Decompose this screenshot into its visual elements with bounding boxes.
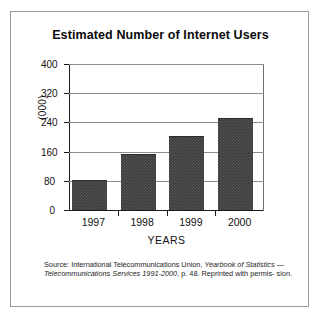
y-tick-320 — [64, 93, 69, 94]
figure-frame: Estimated Number of Internet Users (000)… — [10, 11, 309, 307]
y-tick-label-80: 80 — [41, 175, 55, 186]
x-tick-label-1997: 1997 — [82, 216, 105, 228]
gridline-320 — [69, 93, 264, 94]
x-axis-title: YEARS — [69, 234, 264, 246]
x-tick-3 — [215, 211, 216, 216]
y-tick-label-240: 240 — [41, 117, 55, 128]
right-spine — [263, 64, 264, 211]
x-tick-1 — [118, 211, 119, 216]
y-tick-160 — [64, 152, 69, 153]
y-tick-240 — [64, 122, 69, 123]
y-tick-80 — [64, 181, 69, 182]
y-tick-label-160: 160 — [41, 146, 55, 157]
source-line2-suffix: , p. 48. Reprinted with permis- — [177, 269, 274, 278]
bar-1998 — [121, 154, 156, 210]
source-line3: sion. — [277, 269, 292, 278]
bar-1997 — [72, 180, 107, 210]
source-line1-prefix: Source: International Telecommunications… — [44, 260, 205, 269]
x-tick-2 — [167, 211, 168, 216]
y-tick-label-0: 0 — [41, 205, 55, 216]
y-tick-400 — [64, 64, 69, 65]
y-axis-line — [69, 64, 70, 211]
y-tick-label-320: 320 — [41, 88, 55, 99]
y-tick-0 — [64, 210, 69, 211]
x-tick-label-2000: 2000 — [228, 216, 251, 228]
gridline-400 — [69, 64, 264, 65]
source-line1-italic: Yearbook of Statistics — [205, 260, 275, 269]
source-note: Source: International Telecommunications… — [44, 260, 292, 279]
x-tick-label-1999: 1999 — [179, 216, 202, 228]
bar-1999 — [169, 136, 204, 210]
chart-title: Estimated Number of Internet Users — [11, 28, 309, 42]
bar-2000 — [218, 118, 253, 210]
x-tick-label-1998: 1998 — [130, 216, 153, 228]
y-tick-label-400: 400 — [41, 59, 55, 70]
plot-area: 080160240320400 1997199819992000 — [69, 64, 264, 211]
